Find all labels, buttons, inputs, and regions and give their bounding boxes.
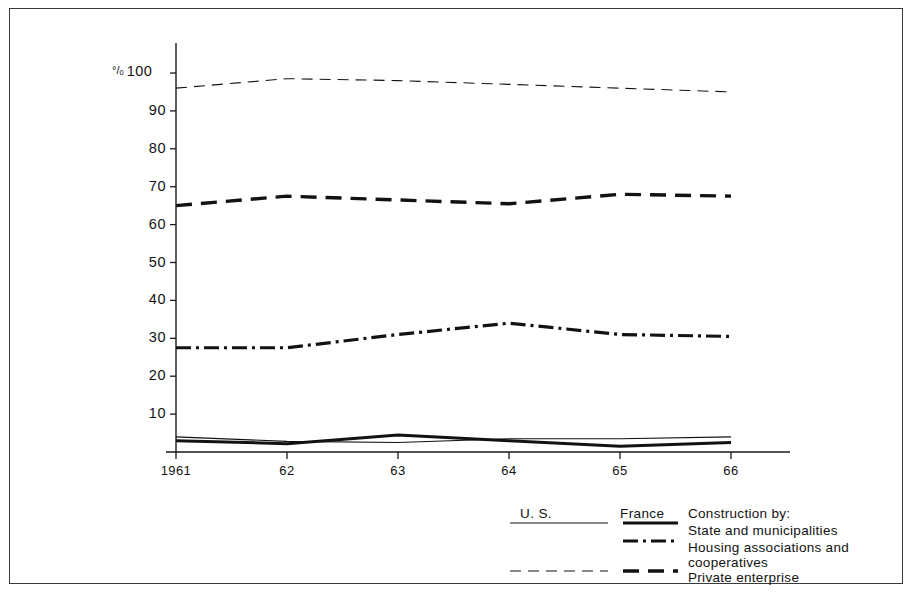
chart-series-line [176,323,731,348]
x-axis-tick-label: 1961 [146,463,206,478]
y-axis-tick-label: 60 [108,216,166,232]
x-axis-tick-label: 62 [257,463,317,478]
y-axis-tick-label: 90 [108,102,166,118]
legend-label-state: State and municipalities [688,523,838,538]
chart-series-line [176,79,731,92]
legend-heading: Construction by: [688,506,790,521]
chart-axes [166,43,790,459]
percent-icon: °/ₒ [112,64,127,76]
y-axis-tick-label: 10 [108,405,166,421]
y-axis-percent-label: °/ₒ 100 [112,63,152,79]
y-axis-tick-label: 30 [108,329,166,345]
legend-label-housing-line2: cooperatives [688,555,768,570]
y-axis-tick-label: 40 [108,291,166,307]
x-axis-tick-label: 66 [701,463,761,478]
y-axis-tick-label: 80 [108,140,166,156]
legend-label-housing-line1: Housing associations and [688,540,849,555]
legend-label-private: Private enterprise [688,570,799,585]
chart-series-group [176,79,731,447]
chart-page: 102030405060708090°/ₒ 100 19616263646566… [0,0,912,592]
x-axis-tick-label: 65 [590,463,650,478]
y-axis-tick-label: 20 [108,367,166,383]
y-axis-tick-label: 70 [108,178,166,194]
legend-header-us: U. S. [520,506,552,521]
x-axis-tick-label: 64 [479,463,539,478]
y-axis-tick-label: 50 [108,254,166,270]
chart-legend: U. S. France Construction by: State and … [498,498,898,584]
x-axis-tick-label: 63 [368,463,428,478]
chart-series-line [176,194,731,205]
legend-header-france: France [620,506,664,521]
